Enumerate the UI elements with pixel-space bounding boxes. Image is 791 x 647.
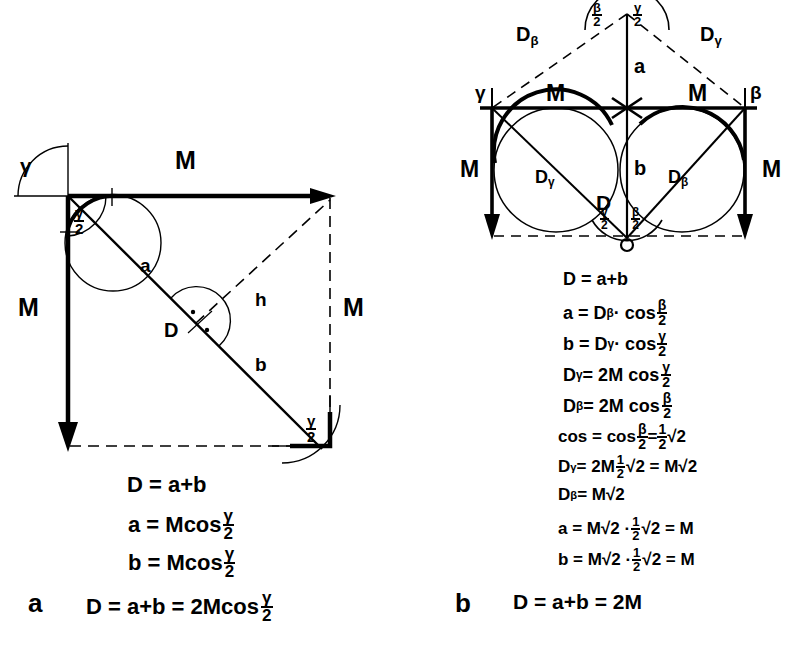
panel-a-label-left-M: M — [18, 295, 39, 320]
panel-b-equation-3: b = Dγ · cos γ2 — [563, 330, 667, 359]
panel-b-label-left-M: M — [460, 158, 479, 181]
b-eq4-lhs: D — [563, 365, 576, 386]
gamma-half-bot-den: 2 — [306, 430, 316, 444]
apex-left-den: 2 — [592, 16, 601, 28]
panel-b-equation-5: Dβ = 2M cos β2 — [563, 392, 672, 421]
dbeta-upper-base: D — [516, 23, 530, 45]
panel-b-label-right-M: M — [762, 158, 781, 181]
panel-b-label-dbeta-upper: Dβ — [516, 24, 539, 47]
panel-a-label-a: a — [140, 256, 151, 275]
b-eq5-den: 2 — [662, 407, 672, 420]
panel-b-equation-1: D = a+b — [563, 269, 628, 290]
panel-a-label-right-M: M — [343, 295, 364, 320]
panel-b-label-b: b — [634, 158, 646, 178]
panel-a-equation-2: a = Mcos γ2 — [128, 508, 234, 542]
panel-a-right-angle-arc — [171, 287, 230, 346]
panel-b-label-top-left-M: M — [546, 82, 565, 105]
panel-b-bottom-angle-left: γ2 — [600, 207, 609, 232]
a-eq2-lhs: a = Mcos — [128, 512, 222, 538]
bot-left-den: 2 — [600, 220, 609, 231]
b-eq3-mid: · cos — [614, 334, 656, 355]
b-eq6-den: 2 — [637, 438, 647, 451]
a-eq4-lhs: D = a+b = 2Mcos — [86, 594, 259, 620]
panel-a-label-gamma-half-bottom: γ2 — [306, 414, 316, 445]
dbeta-circle-base: D — [668, 167, 681, 187]
b-eq5-lhs: D — [563, 396, 576, 417]
b-eq10-den: 2 — [632, 561, 641, 573]
b-eq4-den: 2 — [661, 376, 671, 389]
b-eq9-tail: √2 = M — [641, 519, 693, 539]
dbeta-circle-sub: β — [681, 175, 688, 189]
panel-b-equation-6: cos = cos β2 = 12 √2 — [558, 423, 686, 452]
panel-a-label-h: h — [255, 290, 267, 309]
b-eq5-mid: = 2M cos — [583, 396, 660, 417]
panel-b-equation-4: Dγ = 2M cos γ2 — [563, 361, 671, 390]
panel-a-top-arrowhead — [310, 188, 336, 204]
b-eq8-mid: = M√2 — [577, 485, 625, 505]
panel-b-right-bold-arc — [640, 107, 744, 160]
a-eq4-den: 2 — [261, 608, 272, 624]
b-eq2-sub: β — [607, 306, 614, 320]
gamma-half-top-den: 2 — [74, 222, 84, 236]
panel-b-equation-7: Dγ = 2M 12 √2 = M√2 — [558, 454, 697, 481]
b-eq8-lhs: D — [558, 485, 570, 505]
panel-a-right-angle-dot-1 — [191, 310, 195, 314]
b-eq10-lhs: b = M√2 · — [558, 550, 631, 570]
panel-a-label-gamma-half-top: γ2 — [74, 206, 84, 237]
dgamma-circle-base: D — [535, 167, 548, 187]
b-eq10-tail: √2 = M — [642, 550, 694, 570]
panel-a-label-b: b — [255, 355, 267, 374]
panel-b-equation-9: a = M√2 · 12 √2 = M — [558, 516, 694, 543]
panel-a-diagonal-D — [68, 196, 322, 449]
b-eq6-lhs: cos = cos — [558, 427, 636, 447]
panel-a-equation-3: b = Mcos γ2 — [128, 546, 235, 580]
panel-b-label: b — [455, 588, 471, 619]
apex-right-den: 2 — [633, 16, 642, 28]
b-eq6-tail: √2 — [667, 427, 686, 447]
b-eq7-lhs: D — [558, 457, 570, 477]
a-eq3-den: 2 — [224, 564, 235, 580]
panel-b-equation-11: D = a+b = 2M — [513, 590, 642, 614]
b-eq7-tail: √2 = M√2 — [626, 457, 697, 477]
panel-b-label-beta-corner: β — [750, 83, 762, 102]
panel-b-label-a: a — [634, 56, 645, 76]
b-eq6-den2: 2 — [657, 438, 667, 451]
b-eq3-den: 2 — [657, 345, 667, 358]
b-eq4-sub: γ — [576, 368, 583, 382]
panel-a-right-angle-dot-2 — [205, 328, 209, 332]
dgamma-circle-sub: γ — [548, 175, 555, 189]
b-eq4-mid: = 2M cos — [583, 365, 660, 386]
b-eq8-sub: β — [570, 489, 577, 501]
panel-a-label-gamma: γ — [20, 155, 32, 176]
bot-right-den: 2 — [631, 220, 640, 231]
b-eq6-mid2: = — [648, 427, 658, 447]
a-eq3-lhs: b = Mcos — [128, 550, 223, 576]
panel-a-label: a — [28, 588, 42, 619]
panel-b-label-dgamma-circle: Dγ — [535, 168, 555, 189]
panel-b-label-gamma-corner: γ — [475, 83, 486, 102]
b-eq7-mid: = 2M — [577, 457, 615, 477]
panel-a-label-D: D — [164, 320, 178, 340]
panel-b-apex-angle-right: γ2 — [633, 2, 642, 29]
b-eq2-lhs: a = D — [563, 303, 607, 324]
a-eq2-den: 2 — [223, 526, 234, 542]
panel-a-graphic — [14, 143, 340, 463]
dgamma-upper-sub: γ — [714, 33, 721, 48]
panel-b-label-dbeta-circle: Dβ — [668, 168, 688, 189]
panel-a-label-top-M: M — [175, 148, 196, 173]
b-eq3-sub: γ — [608, 337, 615, 351]
panel-a-equation-4: D = a+b = 2Mcos γ2 — [86, 590, 273, 624]
panel-b-equation-2: a = Dβ · cos β2 — [563, 299, 667, 328]
b-eq7-den: 2 — [616, 468, 625, 480]
b-eq9-lhs: a = M√2 · — [558, 519, 630, 539]
b-eq3-lhs: b = D — [563, 334, 608, 355]
panel-b-equation-10: b = M√2 · 12 √2 = M — [558, 547, 695, 574]
panel-b-label-top-right-M: M — [688, 82, 707, 105]
panel-b-apex-angle-left: β2 — [592, 2, 602, 29]
dgamma-upper-base: D — [700, 23, 714, 45]
b-eq5-sub: β — [576, 399, 583, 413]
panel-b-bottom-angle-right: β2 — [631, 207, 640, 232]
panel-b-label-dgamma-upper: Dγ — [700, 24, 722, 47]
b-eq2-den: 2 — [657, 314, 667, 327]
panel-a-left-arrowhead — [58, 422, 78, 452]
